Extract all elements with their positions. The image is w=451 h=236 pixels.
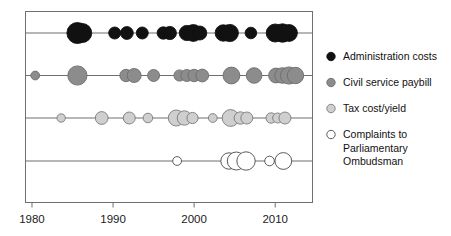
data-bubble — [163, 26, 176, 39]
data-bubble — [148, 70, 160, 82]
data-bubble — [123, 112, 135, 124]
x-tick-label: 1990 — [100, 213, 126, 225]
legend-label: Administration costs — [343, 50, 437, 62]
data-bubble — [193, 26, 207, 40]
data-bubble — [279, 112, 291, 124]
data-bubble — [136, 27, 148, 39]
data-bubble — [237, 152, 255, 170]
legend-label: Ombudsman — [343, 155, 403, 167]
data-bubble — [223, 67, 240, 84]
data-bubble — [246, 68, 262, 84]
data-bubble — [221, 24, 238, 41]
legend-label: Complaints to — [343, 128, 407, 140]
legend-marker — [327, 104, 335, 112]
data-bubble — [109, 27, 121, 39]
data-bubble — [31, 71, 40, 80]
data-bubble — [196, 69, 209, 82]
data-bubble — [73, 24, 92, 43]
x-tick-label: 1980 — [19, 213, 45, 225]
legend-item[interactable]: Civil service paybill — [327, 76, 432, 88]
data-bubble — [95, 112, 108, 125]
data-bubble — [173, 157, 182, 166]
dot-timeline-chart: 1980199020002010 Administration costsCiv… — [0, 0, 451, 236]
data-bubble — [143, 113, 153, 123]
data-bubble — [275, 153, 292, 170]
data-bubble — [281, 25, 298, 42]
legend-marker — [327, 130, 335, 138]
data-bubble — [265, 156, 275, 166]
data-bubble — [287, 67, 303, 83]
x-tick-label: 2010 — [262, 213, 288, 225]
data-bubble — [187, 112, 198, 123]
data-bubble — [68, 66, 87, 85]
data-bubble — [120, 27, 133, 40]
chart-figure: 1980199020002010 Administration costsCiv… — [0, 0, 451, 236]
legend-marker — [327, 52, 335, 60]
data-bubble — [208, 114, 217, 123]
legend-marker — [327, 78, 335, 86]
data-bubble — [241, 112, 253, 124]
legend-label: Civil service paybill — [343, 76, 432, 88]
data-bubble — [57, 114, 65, 122]
data-bubble — [245, 27, 257, 39]
legend-item[interactable]: Administration costs — [327, 50, 437, 62]
x-tick-label: 2000 — [181, 213, 207, 225]
data-bubble — [127, 69, 141, 83]
legend-label: Tax cost/yield — [343, 102, 406, 114]
legend-label: Parliamentary — [343, 142, 409, 154]
